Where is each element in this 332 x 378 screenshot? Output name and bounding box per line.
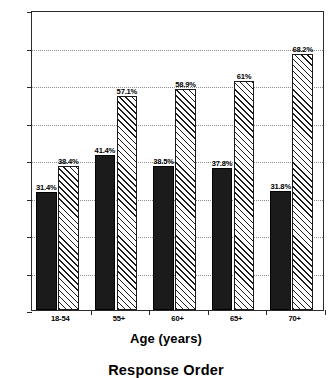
x-axis-label-1854: 18-54 [35, 315, 85, 323]
x-axis-tick [208, 310, 209, 315]
gridline [32, 50, 323, 51]
x-axis-label-65: 65+ [211, 315, 261, 323]
bar-1854-series2 [58, 166, 79, 310]
bar-value-label: 68.2% [288, 46, 318, 54]
bar-1854-series1 [36, 192, 57, 310]
x-axis-tick [149, 310, 150, 315]
y-axis-tick [27, 200, 32, 201]
x-axis-tick [91, 310, 92, 315]
x-axis-tick [266, 310, 267, 315]
plot-area: 0%10%20%30%40%50%60%70%80%31.4%38.4%41.4… [31, 11, 324, 311]
y-axis-tick [27, 87, 32, 88]
y-axis-tick [27, 50, 32, 51]
bar-value-label: 31.4% [31, 184, 61, 192]
y-axis-tick [27, 312, 32, 313]
x-axis-label-55: 55+ [94, 315, 144, 323]
y-axis-tick [27, 125, 32, 126]
bar-value-label: 38.5% [149, 158, 179, 166]
figure-title: Response Order [0, 362, 332, 378]
bar-65-series2 [234, 81, 255, 310]
x-axis-title: Age (years) [0, 331, 332, 346]
y-axis-tick [27, 275, 32, 276]
bar-value-label: 61% [229, 73, 259, 81]
bar-value-label: 31.8% [266, 183, 296, 191]
y-axis-tick [27, 162, 32, 163]
bar-70-series2 [292, 54, 313, 310]
bar-55-series2 [117, 96, 138, 310]
bar-value-label: 41.4% [90, 147, 120, 155]
x-axis-tick [325, 310, 326, 315]
bar-60-series2 [175, 89, 196, 310]
bar-55-series1 [95, 155, 116, 310]
y-axis-tick [27, 237, 32, 238]
bar-value-label: 38.4% [53, 158, 83, 166]
bar-value-label: 58.9% [171, 81, 201, 89]
y-axis-tick [27, 12, 32, 13]
x-axis-label-70: 70+ [270, 315, 320, 323]
bar-value-label: 37.8% [207, 160, 237, 168]
bar-70-series1 [270, 191, 291, 310]
bar-65-series1 [212, 168, 233, 310]
bar-value-label: 57.1% [112, 88, 142, 96]
bar-60-series1 [153, 166, 174, 310]
x-axis-label-60: 60+ [153, 315, 203, 323]
